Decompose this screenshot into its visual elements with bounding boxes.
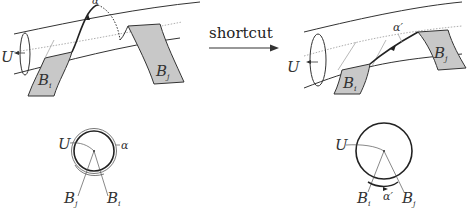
label-alpha-prime-top: α′ (393, 21, 403, 34)
label-alpha-prime-bottom-right: α′ (383, 190, 393, 203)
alpha-curve (72, 5, 98, 52)
label-bj-bottom-left: Bj (63, 189, 78, 208)
shortcut-arrow (209, 45, 279, 52)
label-bj-bottom-right: Bj (401, 189, 416, 208)
label-u-bottom-right: U (335, 136, 349, 154)
label-u-top-right: U (287, 58, 301, 76)
right-circle-figure (346, 123, 412, 192)
label-bi-bottom-right: Bi (356, 189, 371, 208)
label-alpha-bottom-left: α (121, 139, 129, 152)
shortcut-diagram: α U Bi Bj shortcut α′ U Bi Bj (0, 0, 472, 208)
label-u-top-left: U (1, 48, 15, 66)
label-bi-bottom-left: Bi (106, 189, 121, 208)
label-u-bottom-left: U (58, 135, 72, 153)
left-circle-figure (70, 129, 120, 197)
shortcut-label: shortcut (209, 24, 273, 42)
label-alpha-top: α (92, 0, 99, 6)
